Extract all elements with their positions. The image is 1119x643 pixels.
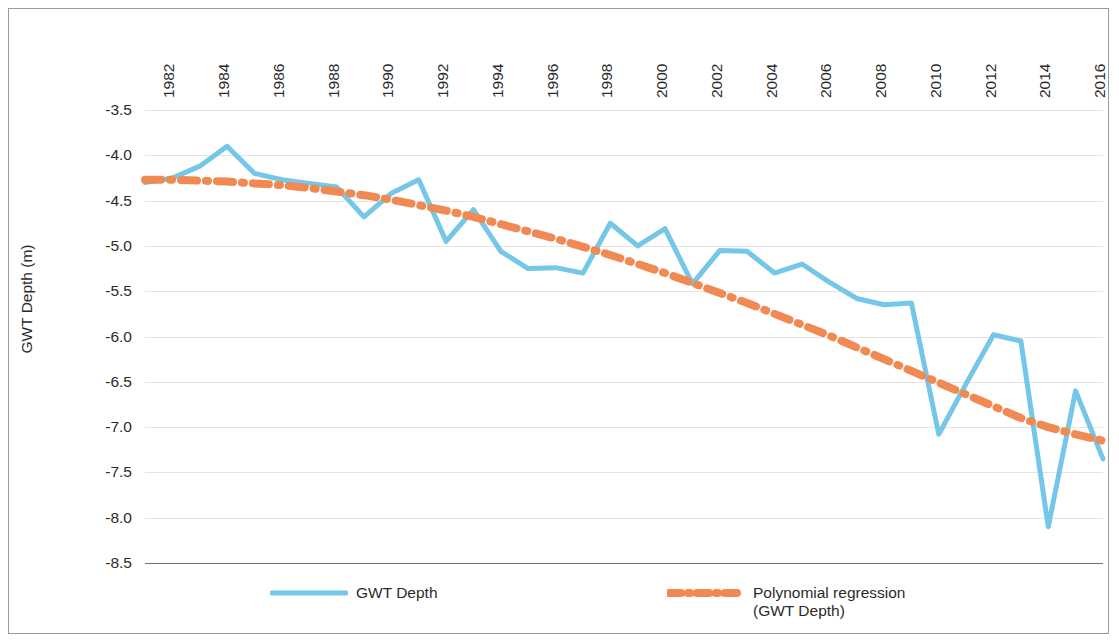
y-axis-tick-label: -6.0 (72, 329, 132, 345)
x-axis-tick-label: 1996 (544, 64, 562, 98)
y-axis-tick-labels: -3.5-4.0-4.5-5.0-5.5-6.0-6.5-7.0-7.5-8.0… (72, 0, 132, 643)
y-axis-tick-label: -8.0 (72, 510, 132, 526)
x-axis-tick-label: 1992 (434, 64, 452, 98)
x-axis-tick-label: 1994 (489, 64, 507, 98)
x-axis-tick-label: 2014 (1036, 64, 1054, 98)
x-axis-tick-label: 1986 (270, 64, 288, 98)
x-axis-tick-label: 1982 (160, 64, 178, 98)
x-axis-tick-label: 1984 (215, 64, 233, 98)
plot-area (145, 110, 1103, 563)
legend-label: GWT Depth (356, 583, 438, 602)
x-axis-line (145, 563, 1103, 564)
y-axis-tick-label: -7.5 (72, 464, 132, 480)
legend-entry[interactable]: Polynomial regression (GWT Depth) (667, 583, 906, 621)
y-axis-tick-label: -6.5 (72, 374, 132, 390)
series-container (145, 110, 1103, 563)
x-axis-tick-label: 2010 (927, 64, 945, 98)
x-axis-tick-label: 2002 (708, 64, 726, 98)
chart-figure: 1982198419861988199019921994199619982000… (0, 0, 1119, 643)
y-axis-tick-label: -4.0 (72, 147, 132, 163)
legend-swatch (667, 583, 745, 601)
y-axis-tick-label: -5.0 (72, 238, 132, 254)
chart-legend: GWT DepthPolynomial regression (GWT Dept… (0, 583, 1119, 643)
y-axis-tick-label: -8.5 (72, 555, 132, 571)
y-axis-tick-label: -7.0 (72, 419, 132, 435)
legend-swatch (270, 583, 348, 601)
x-axis-tick-label: 2004 (763, 64, 781, 98)
x-axis-tick-label: 2006 (817, 64, 835, 98)
x-axis-tick-label: 2016 (1091, 64, 1109, 98)
x-axis-tick-label: 1998 (598, 64, 616, 98)
x-axis-tick-label: 1990 (379, 64, 397, 98)
legend-label: Polynomial regression (GWT Depth) (753, 583, 906, 621)
y-axis-tick-label: -3.5 (72, 102, 132, 118)
y-axis-title: GWT Depth (m) (18, 229, 36, 369)
x-axis-tick-label: 2000 (653, 64, 671, 98)
x-axis-tick-label: 2012 (982, 64, 1000, 98)
series-line (145, 146, 1103, 527)
x-axis-tick-label: 2008 (872, 64, 890, 98)
x-axis-tick-label: 1988 (325, 64, 343, 98)
legend-entry[interactable]: GWT Depth (270, 583, 438, 602)
x-axis-tick-labels: 1982198419861988199019921994199619982000… (0, 0, 1119, 110)
y-axis-tick-label: -4.5 (72, 193, 132, 209)
y-axis-tick-label: -5.5 (72, 283, 132, 299)
